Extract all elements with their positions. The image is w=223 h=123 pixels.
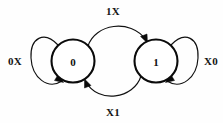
state-node-0[interactable]: 0 (52, 40, 95, 83)
transition-1-to-0-path (86, 76, 141, 96)
transition-1-to-0-group (85, 76, 142, 96)
self-loop-0-label: 0X (8, 55, 22, 67)
state-0-label: 0 (70, 56, 76, 68)
transition-0-to-1-label: 1X (106, 5, 120, 17)
fsm-canvas: 0 1 1X X1 0X X0 (0, 0, 223, 123)
self-loop-1-label: X0 (204, 55, 218, 67)
state-1-label: 1 (153, 56, 159, 68)
state-transition-diagram: 0 1 1X X1 0X X0 (0, 0, 223, 123)
transition-0-to-1-group (88, 26, 148, 46)
transition-1-to-0-label: X1 (106, 106, 120, 118)
transition-0-to-1-path (88, 26, 146, 46)
state-node-1[interactable]: 1 (135, 40, 178, 83)
transition-1-to-0-arrowhead (85, 79, 92, 88)
